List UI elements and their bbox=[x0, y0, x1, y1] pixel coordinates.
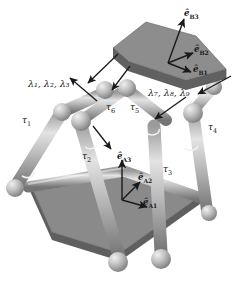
tau2-indicator-arrow bbox=[93, 126, 111, 149]
mechanism-drawing bbox=[0, 0, 241, 284]
label-tau-4: τ4 bbox=[208, 123, 217, 134]
label-e-b2: êB2 bbox=[194, 45, 209, 56]
joint-top-a bbox=[96, 81, 114, 99]
lambda-arrow-left-upper bbox=[88, 54, 118, 83]
figure-canvas: τ1 τ2 τ3 τ4 τ5 τ6 λ₁, λ₂, λ₃ λ₇, λ₈, λ₉ … bbox=[0, 0, 241, 284]
label-tau-3: τ3 bbox=[163, 165, 172, 176]
label-e-b1: êB1 bbox=[193, 65, 208, 76]
joint-mid-c bbox=[183, 103, 203, 123]
joint-base-right bbox=[201, 205, 217, 221]
label-e-a1: êA1 bbox=[143, 198, 157, 209]
joint-base-left bbox=[6, 179, 24, 197]
label-e-b3: êB3 bbox=[184, 9, 199, 20]
label-e-a3: êA3 bbox=[117, 152, 131, 163]
leg-3-lower bbox=[154, 126, 161, 252]
label-tau-1: τ1 bbox=[22, 116, 31, 127]
label-tau-5: τ5 bbox=[130, 103, 139, 114]
label-lambda-group-left: λ₁, λ₂, λ₃ bbox=[28, 79, 70, 89]
joint-base-bottom-2 bbox=[151, 249, 171, 269]
label-tau-6: τ6 bbox=[106, 103, 115, 114]
joint-mid-a bbox=[53, 103, 71, 121]
joint-top-b bbox=[118, 79, 136, 97]
label-lambda-group-right: λ₇, λ₈, λ₉ bbox=[148, 88, 190, 98]
label-tau-2: τ2 bbox=[82, 152, 91, 163]
label-e-a2: êA2 bbox=[138, 173, 152, 184]
joint-base-bottom-1 bbox=[108, 252, 128, 272]
joint-mid-b bbox=[71, 111, 91, 131]
